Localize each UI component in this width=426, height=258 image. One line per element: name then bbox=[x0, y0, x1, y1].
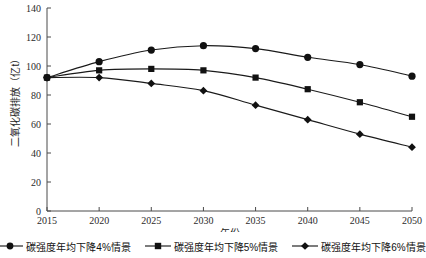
x-tick-label: 2040 bbox=[298, 215, 318, 226]
data-point-diamond bbox=[95, 74, 103, 82]
y-tick-label: 100 bbox=[26, 61, 41, 72]
data-point-circle bbox=[252, 45, 259, 52]
legend-label-4pct: 碳强度年均下降4%情景 bbox=[26, 239, 130, 254]
data-point-diamond bbox=[356, 130, 364, 138]
x-tick-label: 2045 bbox=[350, 215, 370, 226]
data-point-square bbox=[96, 67, 102, 73]
legend-item-4pct[interactable]: 碳强度年均下降4%情景 bbox=[0, 239, 131, 254]
data-point-square bbox=[357, 99, 363, 105]
y-tick-label: 80 bbox=[31, 90, 41, 101]
y-tick-label: 60 bbox=[31, 119, 41, 130]
series-line bbox=[47, 69, 412, 117]
data-point-circle bbox=[148, 46, 155, 53]
legend-marker-square-icon bbox=[145, 241, 171, 251]
data-point-square bbox=[148, 66, 154, 72]
data-point-square bbox=[305, 86, 311, 92]
x-tick-label: 2025 bbox=[141, 215, 161, 226]
legend-label-5pct: 碳强度年均下降5%情景 bbox=[174, 239, 278, 254]
y-tick-label: 120 bbox=[26, 32, 41, 43]
data-point-circle bbox=[356, 61, 363, 68]
x-tick-label: 2015 bbox=[37, 215, 57, 226]
legend-label-6pct: 碳强度年均下降6%情景 bbox=[321, 239, 425, 254]
data-point-diamond bbox=[408, 143, 416, 151]
data-point-diamond bbox=[304, 116, 312, 124]
data-point-circle bbox=[304, 54, 311, 61]
x-axis-title: 年份 bbox=[220, 227, 240, 232]
x-tick-label: 2035 bbox=[246, 215, 266, 226]
legend-item-5pct[interactable]: 碳强度年均下降5%情景 bbox=[145, 239, 278, 254]
legend-marker-circle-icon bbox=[0, 241, 23, 251]
data-point-square bbox=[409, 114, 415, 120]
plot-area: 0204060801001201402015202020252030203520… bbox=[0, 0, 423, 232]
data-point-square bbox=[200, 67, 206, 73]
data-point-diamond bbox=[252, 101, 260, 109]
y-tick-label: 40 bbox=[31, 148, 41, 159]
data-point-circle bbox=[96, 58, 103, 65]
y-tick-label: 140 bbox=[26, 3, 41, 14]
data-point-circle bbox=[408, 73, 415, 80]
y-axis-title: 二氧化碳排放（亿t） bbox=[10, 57, 21, 147]
x-tick-label: 2030 bbox=[193, 215, 213, 226]
x-tick-label: 2050 bbox=[402, 215, 422, 226]
legend-marker-diamond-icon bbox=[292, 241, 318, 251]
data-point-square bbox=[252, 75, 258, 81]
line-chart-svg: 0204060801001201402015202020252030203520… bbox=[0, 0, 423, 232]
x-tick-label: 2020 bbox=[89, 215, 109, 226]
series-2 bbox=[44, 66, 415, 120]
data-point-circle bbox=[200, 42, 207, 49]
data-point-diamond bbox=[147, 80, 155, 88]
series-3 bbox=[43, 74, 416, 151]
y-tick-label: 20 bbox=[31, 177, 41, 188]
data-point-diamond bbox=[200, 87, 208, 95]
chart-legend: 碳强度年均下降4%情景 碳强度年均下降5%情景 碳强度年均下降6%情景 bbox=[0, 236, 423, 256]
legend-item-6pct[interactable]: 碳强度年均下降6%情景 bbox=[292, 239, 425, 254]
series-line bbox=[47, 77, 412, 147]
